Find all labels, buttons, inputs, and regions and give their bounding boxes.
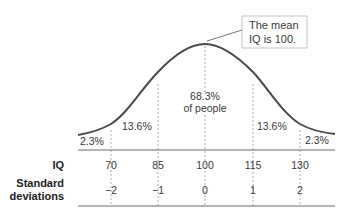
sd-tick-0: 0 <box>202 184 208 196</box>
sd-row-label-2: deviations <box>10 190 64 202</box>
iq-tick-115: 115 <box>245 159 262 171</box>
callout-leader <box>207 30 242 41</box>
sd-tick-minus1: −1 <box>152 184 164 196</box>
region-center-note: of people <box>183 102 226 114</box>
callout-line1: The mean <box>249 19 299 31</box>
region-left-mid: 13.6% <box>122 120 152 132</box>
sd-tick-minus2: −2 <box>105 184 117 196</box>
iq-row-label: IQ <box>52 159 64 171</box>
iq-tick-100: 100 <box>196 159 214 171</box>
sd-tick-1: 1 <box>250 184 256 196</box>
sd-row-label-1: Standard <box>16 177 64 189</box>
region-left-tail: 2.3% <box>80 135 104 147</box>
region-right-tail: 2.3% <box>305 134 329 146</box>
region-right-mid: 13.6% <box>257 120 287 132</box>
iq-tick-70: 70 <box>105 159 117 171</box>
sd-tick-2: 2 <box>297 184 303 196</box>
normal-distribution-chart: The mean IQ is 100. 2.3% 13.6% 68.3% of … <box>0 0 350 216</box>
region-center-pct: 68.3% <box>190 90 220 102</box>
callout-line2: IQ is 100. <box>249 33 296 45</box>
iq-tick-130: 130 <box>291 159 309 171</box>
iq-tick-85: 85 <box>152 159 164 171</box>
